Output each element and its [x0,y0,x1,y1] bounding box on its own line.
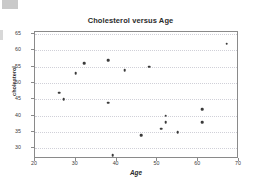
data-point [107,101,110,104]
data-point [140,134,143,137]
data-point [201,108,204,111]
data-point [160,128,163,131]
data-point [164,114,167,117]
x-tick-label: 70 [228,160,248,166]
y-tick-label: 40 [0,112,21,118]
y-axis-label: cholesterol [11,51,17,111]
data-point [164,121,167,124]
data-point [75,72,78,75]
x-axis-label: Age [34,169,238,176]
x-tick-label: 20 [24,160,44,166]
plot-area [34,31,238,158]
gridline-horizontal [35,148,237,149]
data-point [201,121,204,124]
data-point [225,43,228,46]
gridline-horizontal [35,83,237,84]
x-tick-label: 30 [65,160,85,166]
gridline-horizontal [35,67,237,68]
data-point [83,62,86,65]
chart-title: Cholesterol versus Age [0,16,261,25]
data-point [62,98,65,101]
data-point [177,131,180,134]
y-tick-label: 30 [0,144,21,150]
gridline-horizontal [35,50,237,51]
gridline-horizontal [35,132,237,133]
gridlines [35,32,237,157]
scatter-chart: Cholesterol versus Age 3035404550556065 … [0,0,261,184]
x-tick-label: 60 [187,160,207,166]
y-tick-label: 35 [0,128,21,134]
x-tick-label: 50 [146,160,166,166]
data-point [123,69,126,72]
data-point [148,65,151,68]
gridline-horizontal [35,116,237,117]
x-tick-label: 40 [106,160,126,166]
data-point [111,154,114,157]
screenshot-root: Cholesterol versus Age 3035404550556065 … [0,0,261,184]
gridline-horizontal [35,99,237,100]
data-point [58,92,61,95]
gridline-horizontal [35,34,237,35]
y-tick-label: 65 [0,30,21,36]
data-point [107,59,110,62]
